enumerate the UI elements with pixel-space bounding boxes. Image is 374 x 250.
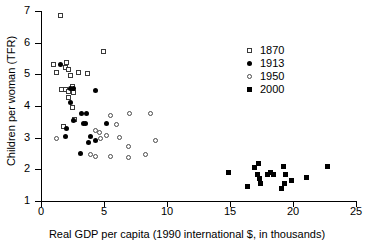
data-point-1870 [70,105,75,110]
data-point-1913 [88,134,93,139]
data-point-1913 [93,88,98,93]
data-point-1950 [108,154,113,159]
data-point-2000 [289,178,294,183]
data-point-2000 [281,164,286,169]
y-tick-2 [35,169,41,170]
data-point-1913 [83,121,88,126]
legend-label: 2000 [260,84,284,95]
data-point-1950 [117,135,122,140]
legend-label: 1950 [260,71,284,82]
marker-glyph [247,61,252,66]
data-point-2000 [258,181,263,186]
data-point-1913 [78,151,83,156]
x-tick-label-0: 0 [26,206,56,217]
legend-marker-filled-circle-icon [243,61,256,66]
data-point-1950 [108,113,113,118]
y-tick-5 [35,74,41,75]
data-point-1950 [126,144,131,149]
legend-item-1870: 1870 [243,44,284,57]
x-tick-label-10: 10 [152,206,182,217]
data-point-2000 [304,175,309,180]
legend-marker-open-circle-icon [243,74,256,79]
legend-marker-open-square-icon [243,48,256,53]
data-point-2000 [279,186,284,191]
marker-glyph [247,74,252,79]
y-axis-title: Children per woman (TFR) [5,6,17,196]
data-point-1913 [104,121,109,126]
legend-marker-filled-square-icon [243,87,256,92]
data-point-1870 [68,73,73,78]
data-point-1870 [51,62,56,67]
y-tick-3 [35,138,41,139]
legend-label: 1913 [260,58,284,69]
x-axis-title: Real GDP per capita (1990 international … [0,228,374,240]
y-tick-6 [35,43,41,44]
data-point-1913 [64,126,69,131]
data-point-1950 [126,155,131,160]
data-point-1870 [66,67,71,72]
data-point-1913 [84,111,89,116]
legend-label: 1870 [260,45,284,56]
y-axis-line [41,11,42,201]
data-point-1950 [148,111,153,116]
data-point-2000 [252,165,257,170]
data-point-1950 [104,133,109,138]
chart-legend: 1870191319502000 [243,44,284,96]
data-point-1870 [85,71,90,76]
data-point-1950 [143,152,148,157]
data-point-1870 [101,49,106,54]
data-point-1870 [54,70,59,75]
x-axis-line [41,201,356,202]
x-tick-label-5: 5 [89,206,119,217]
y-tick-4 [35,106,41,107]
data-point-1870 [71,90,76,95]
data-point-2000 [256,161,261,166]
data-point-1913 [71,118,76,123]
data-point-1870 [58,13,63,18]
x-tick-label-15: 15 [215,206,245,217]
data-point-1950 [153,138,158,143]
marker-glyph [247,48,252,53]
y-tick-label-1: 1 [4,195,30,206]
data-point-1870 [64,60,69,65]
data-point-1950 [98,136,103,141]
data-point-2000 [271,172,276,177]
data-point-1913 [63,134,68,139]
data-point-1913 [86,140,91,145]
data-point-2000 [325,164,330,169]
legend-item-1950: 1950 [243,70,284,83]
data-point-1950 [54,136,59,141]
data-point-1950 [114,122,119,127]
x-tick-label-25: 25 [341,206,371,217]
data-point-2000 [282,181,287,186]
data-point-1950 [127,111,132,116]
x-tick-label-20: 20 [278,206,308,217]
marker-glyph [247,87,252,92]
data-point-1950 [93,154,98,159]
data-point-2000 [226,170,231,175]
data-point-2000 [245,184,250,189]
data-point-2000 [283,172,288,177]
legend-item-2000: 2000 [243,83,284,96]
data-point-1950 [97,130,102,135]
legend-item-1913: 1913 [243,57,284,70]
scatter-chart: 12345670510152025 1870191319502000 Child… [0,0,374,250]
y-tick-7 [35,11,41,12]
data-point-1870 [66,95,71,100]
data-point-1870 [76,70,81,75]
